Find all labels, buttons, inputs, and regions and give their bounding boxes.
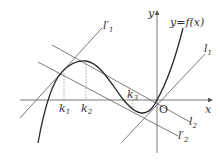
label-l1-prime: l′1	[103, 19, 114, 34]
curve-label: y=f(x)	[169, 16, 204, 29]
label-l2-prime: l′2	[178, 129, 189, 144]
label-l1: l1	[204, 42, 212, 57]
label-l2: l2	[189, 115, 198, 130]
y-axis-label: y	[147, 7, 155, 20]
label-k1: k1	[59, 102, 70, 116]
origin-label: O	[159, 103, 168, 116]
x-axis-label: x	[205, 103, 212, 116]
label-k2: k2	[81, 102, 93, 116]
curve-f	[38, 28, 183, 143]
line-l2	[52, 45, 190, 122]
label-k3: k3	[127, 88, 139, 102]
function-diagram: y x O y=f(x) l′1 l1 l2 l′2 k1 k2 k3	[0, 0, 221, 161]
